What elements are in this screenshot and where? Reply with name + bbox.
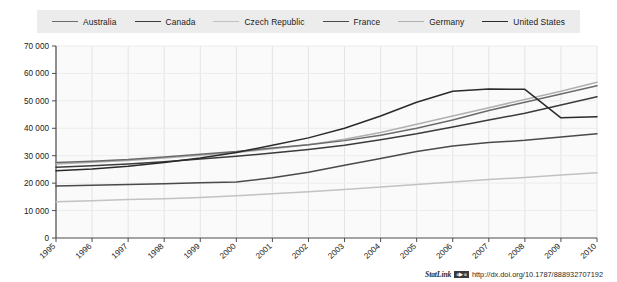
- statlink-footer: StatLink ≡▶≡ http://dx.doi.org/10.1787/8…: [425, 270, 603, 279]
- y-tick-label: 20 000: [24, 179, 49, 188]
- legend-item-united-states[interactable]: United States: [482, 17, 565, 27]
- x-tick-label: 2000: [218, 242, 238, 261]
- legend-item-australia[interactable]: Australia: [52, 17, 116, 27]
- y-tick-label: 10 000: [24, 207, 49, 216]
- y-tick-label: 60 000: [24, 69, 49, 78]
- legend-swatch-icon: [52, 21, 78, 22]
- legend-item-czech-republic[interactable]: Czech Republic: [213, 17, 304, 27]
- x-tick-label: 2005: [398, 242, 418, 261]
- legend-item-label: United States: [513, 17, 565, 27]
- y-tick-label: 30 000: [24, 152, 49, 161]
- line-chart: 010 00020 00030 00040 00050 00060 00070 …: [0, 36, 617, 282]
- x-tick-label: 2001: [254, 242, 274, 261]
- x-tick-label: 1996: [74, 242, 94, 261]
- legend-item-label: Germany: [429, 17, 464, 27]
- y-tick-label: 0: [44, 234, 49, 243]
- x-tick-label: 2003: [326, 242, 346, 261]
- legend-swatch-icon: [398, 21, 424, 22]
- statlink-badge-icon: ≡▶≡: [454, 271, 469, 278]
- legend-swatch-icon: [323, 21, 349, 22]
- chart-screenshot: AustraliaCanadaCzech RepublicFranceGerma…: [0, 0, 617, 282]
- y-tick-label: 40 000: [24, 124, 49, 133]
- chart-legend: AustraliaCanadaCzech RepublicFranceGerma…: [37, 10, 580, 33]
- y-tick-label: 50 000: [24, 97, 49, 106]
- x-tick-label: 2007: [471, 242, 491, 261]
- legend-swatch-icon: [135, 21, 161, 22]
- x-tick-label: 2002: [290, 242, 310, 261]
- y-tick-label: 70 000: [24, 42, 49, 51]
- legend-item-label: France: [354, 17, 381, 27]
- x-tick-label: 2008: [507, 242, 527, 261]
- legend-item-label: Czech Republic: [244, 17, 304, 27]
- legend-item-france[interactable]: France: [323, 17, 381, 27]
- x-tick-label: 1999: [182, 242, 202, 261]
- chart-plot-container: 010 00020 00030 00040 00050 00060 00070 …: [0, 36, 617, 282]
- legend-item-label: Australia: [83, 17, 116, 27]
- x-tick-label: 1995: [38, 242, 58, 261]
- x-tick-label: 1997: [110, 242, 130, 261]
- legend-swatch-icon: [213, 21, 239, 22]
- x-tick-label: 1998: [146, 242, 166, 261]
- legend-item-canada[interactable]: Canada: [135, 17, 196, 27]
- x-tick-label: 2004: [362, 242, 382, 261]
- legend-swatch-icon: [482, 21, 508, 22]
- legend-item-label: Canada: [166, 17, 196, 27]
- x-tick-label: 2009: [543, 242, 563, 261]
- statlink-label: StatLink: [425, 270, 451, 279]
- x-tick-label: 2006: [435, 242, 455, 261]
- statlink-url[interactable]: http://dx.doi.org/10.1787/888932707192: [472, 270, 603, 279]
- x-tick-label: 2010: [579, 242, 599, 261]
- legend-item-germany[interactable]: Germany: [398, 17, 464, 27]
